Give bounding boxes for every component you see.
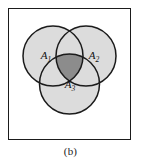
figure-caption: (b) — [0, 145, 141, 157]
triple-intersection-region — [8, 8, 131, 140]
figure-root: A1 A2 A3 (b) — [0, 0, 141, 167]
venn-label-a1-subscript: 1 — [47, 55, 51, 64]
venn-label-a3-subscript: 3 — [70, 84, 75, 93]
venn-label-a2-subscript: 2 — [95, 55, 99, 64]
venn-diagram: A1 A2 A3 — [8, 8, 131, 140]
